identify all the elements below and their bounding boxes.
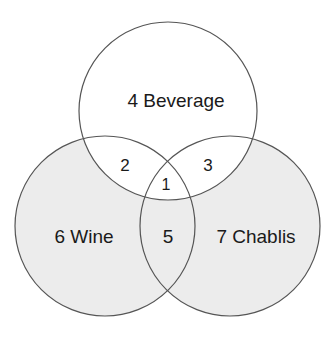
label-wine-chablis: 5 (163, 226, 174, 247)
label-beverage-only: 4 Beverage (127, 90, 224, 111)
label-beverage-wine: 2 (120, 156, 129, 175)
venn-diagram: 4 Beverage 6 Wine 7 Chablis 2 3 1 5 (0, 0, 330, 337)
label-chablis-only: 7 Chablis (216, 226, 295, 247)
label-all-three: 1 (162, 176, 171, 193)
venn-svg: 4 Beverage 6 Wine 7 Chablis 2 3 1 5 (0, 0, 330, 337)
beverage-circle (79, 22, 257, 200)
label-beverage-chablis: 3 (203, 156, 212, 175)
label-wine-only: 6 Wine (54, 226, 113, 247)
